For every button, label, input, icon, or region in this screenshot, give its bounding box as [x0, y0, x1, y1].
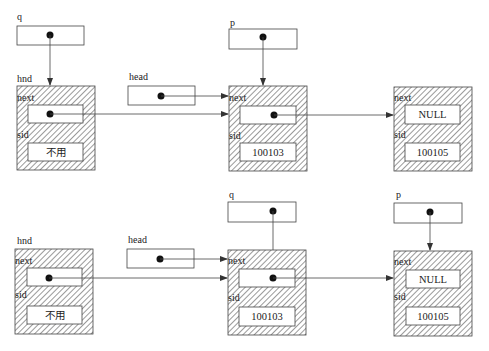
sid-label: sid	[15, 289, 27, 300]
bottom-node-100105: next NULL sid 100105	[394, 251, 472, 336]
sid-label: sid	[394, 129, 406, 140]
linked-list-diagram: q hnd next sid 不用 head p	[0, 0, 489, 351]
bottom-state: hnd next sid 不用 head q next	[15, 189, 472, 336]
sid-value: 不用	[46, 147, 66, 158]
pointer-label: head	[129, 71, 148, 82]
bottom-node-100103: next sid 100103	[228, 250, 306, 335]
next-value: NULL	[419, 274, 447, 285]
next-field	[27, 268, 82, 286]
sid-value: 100103	[252, 147, 284, 158]
next-label: next	[394, 92, 411, 103]
bottom-node-hnd: hnd next sid 不用	[15, 235, 93, 334]
sid-label: sid	[228, 292, 240, 303]
sid-label: sid	[17, 129, 29, 140]
next-label: next	[229, 92, 246, 103]
next-label: next	[15, 255, 32, 266]
pointer-label: p	[396, 189, 401, 200]
node-label: hnd	[17, 235, 32, 246]
sid-value: 不用	[45, 310, 65, 321]
bottom-pointer-head: head	[127, 234, 227, 268]
sid-value: 100105	[417, 311, 449, 322]
sid-value: 100103	[251, 311, 283, 322]
top-node-hnd: hnd next sid 不用	[17, 73, 95, 170]
pointer-label: p	[230, 17, 235, 28]
next-label: next	[394, 256, 411, 267]
top-node-100103: next sid 100103	[229, 86, 307, 171]
top-state: q hnd next sid 不用 head p	[17, 11, 472, 171]
sid-label: sid	[229, 130, 241, 141]
pointer-label: q	[229, 189, 234, 200]
pointer-label: head	[128, 234, 147, 245]
next-label: next	[228, 255, 245, 266]
top-node-100105: next NULL sid 100105	[394, 87, 472, 171]
pointer-label: q	[17, 11, 22, 22]
sid-label: sid	[394, 291, 406, 302]
sid-value: 100105	[417, 147, 449, 158]
bottom-pointer-p: p	[394, 189, 462, 250]
next-label: next	[17, 92, 34, 103]
pointer-box	[228, 202, 296, 222]
node-label: hnd	[17, 73, 32, 84]
top-pointer-head: head	[128, 71, 228, 105]
next-value: NULL	[419, 109, 447, 120]
top-pointer-p: p	[229, 17, 297, 85]
